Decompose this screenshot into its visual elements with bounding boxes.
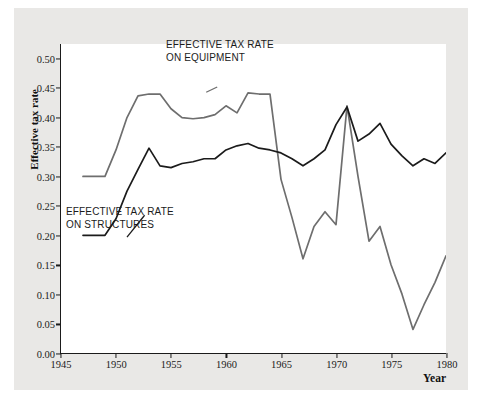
x-tick-mark — [336, 353, 337, 358]
x-tick-mark — [171, 353, 172, 358]
y-tick-mark — [56, 294, 61, 295]
y-tick-label: 0.20 — [37, 230, 55, 241]
x-tick-mark — [391, 353, 392, 358]
x-tick-mark — [226, 353, 227, 358]
y-tick-label: 0.25 — [37, 201, 55, 212]
annotation-equipment-line1: EFFECTIVE TAX RATE — [166, 38, 274, 51]
x-tick-label: 1955 — [161, 359, 182, 370]
y-tick-label: 0.05 — [37, 319, 55, 330]
y-tick-label: 0.00 — [37, 349, 55, 360]
annotation-structures: EFFECTIVE TAX RATE ON STRUCTURES — [66, 205, 174, 231]
y-tick-label: 0.10 — [37, 289, 55, 300]
x-tick-label: 1975 — [381, 359, 402, 370]
x-tick-mark — [60, 353, 61, 358]
y-tick-mark — [56, 324, 61, 325]
plot-area: 0.000.050.100.150.200.250.300.350.400.45… — [60, 44, 446, 354]
x-tick-label: 1950 — [106, 359, 127, 370]
x-tick-label: 1960 — [216, 359, 237, 370]
y-tick-mark — [56, 176, 61, 177]
y-tick-mark — [56, 265, 61, 266]
annotation-leader-line — [206, 87, 217, 92]
y-axis-label: Effective tax rate — [26, 44, 42, 214]
x-tick-mark — [446, 353, 447, 358]
y-tick-label: 0.35 — [37, 142, 55, 153]
x-tick-label: 1980 — [437, 359, 458, 370]
x-tick-label: 1970 — [326, 359, 347, 370]
y-tick-mark — [56, 88, 61, 89]
y-tick-mark — [56, 235, 61, 236]
annotation-structures-line1: EFFECTIVE TAX RATE — [66, 205, 174, 218]
series-lines — [61, 44, 446, 353]
x-tick-label: 1945 — [51, 359, 72, 370]
y-tick-label: 0.50 — [37, 53, 55, 64]
x-axis-label: Year — [423, 372, 446, 384]
y-tick-label: 0.15 — [37, 260, 55, 271]
annotation-equipment: EFFECTIVE TAX RATE ON EQUIPMENT — [166, 38, 274, 64]
y-tick-label: 0.45 — [37, 83, 55, 94]
y-tick-mark — [56, 206, 61, 207]
y-tick-label: 0.30 — [37, 171, 55, 182]
x-tick-label: 1965 — [271, 359, 292, 370]
x-tick-mark — [116, 353, 117, 358]
annotation-equipment-line2: ON EQUIPMENT — [166, 51, 274, 64]
y-tick-mark — [56, 117, 61, 118]
annotation-structures-line2: ON STRUCTURES — [66, 218, 174, 231]
x-tick-mark — [281, 353, 282, 358]
y-tick-label: 0.40 — [37, 112, 55, 123]
figure-panel: Effective tax rate Year 0.000.050.100.15… — [14, 8, 468, 390]
y-tick-mark — [56, 147, 61, 148]
y-tick-mark — [56, 58, 61, 59]
